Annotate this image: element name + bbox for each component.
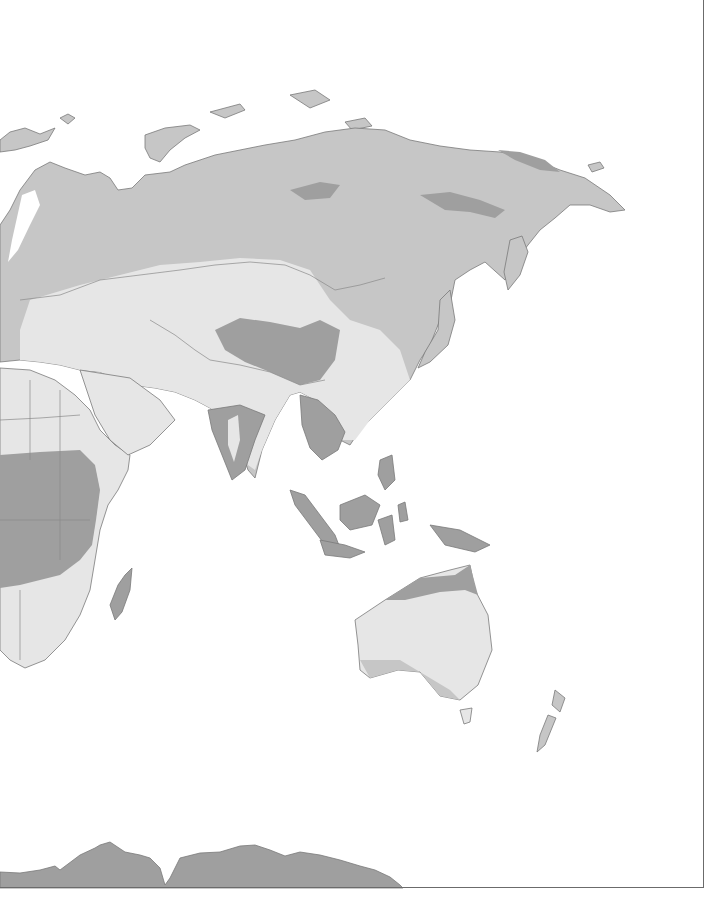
map-frame-right <box>703 0 704 888</box>
map-frame-bottom <box>0 887 704 888</box>
antarctica <box>0 842 403 888</box>
world-map <box>0 0 712 898</box>
maritime-southeast-asia <box>290 455 490 558</box>
australia <box>355 565 492 724</box>
new-zealand <box>537 690 565 752</box>
